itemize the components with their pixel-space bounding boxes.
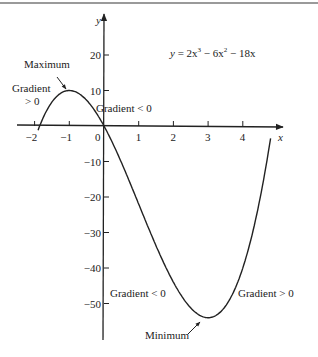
cubic-curve [38, 91, 271, 318]
minimum-arrow [188, 322, 200, 334]
y-tick-label: 20 [90, 49, 101, 61]
x-tick-label: −1 [60, 131, 72, 143]
y-tick-label: −30 [84, 227, 101, 239]
y-tick-label: 10 [90, 85, 101, 97]
minimum-label: Minimum [145, 329, 189, 341]
maximum-arrow [57, 77, 66, 89]
equation-lhs: y [170, 47, 175, 59]
gradient-positive-left-line2: > 0 [25, 95, 39, 107]
x-tick-label: 1 [136, 131, 142, 143]
y-tick-label: −40 [84, 262, 101, 274]
y-ticks [104, 55, 109, 304]
y-tick-label: −20 [84, 191, 101, 203]
x-tick-label: 0 [95, 131, 101, 143]
gradient-positive-left-line1: Gradient [12, 82, 50, 94]
x-axis-label: x [278, 131, 283, 143]
equation-term3: − 18x [227, 47, 255, 59]
maximum-label: Maximum [24, 58, 70, 70]
y-axis [103, 14, 104, 340]
y-tick-label: −10 [84, 156, 101, 168]
equation-term2: − 6x [201, 47, 224, 59]
x-tick-label: 3 [205, 131, 211, 143]
x-tick-label: 4 [240, 131, 246, 143]
equation-term1: 2x [187, 47, 198, 59]
gradient-negative-bottom-label: Gradient < 0 [110, 287, 166, 299]
x-tick-label: −2 [26, 131, 38, 143]
y-tick-label: −50 [84, 298, 101, 310]
equation-label: y = 2x3 − 6x2 − 18x [170, 46, 256, 59]
y-axis-label: y [96, 14, 101, 26]
chart-canvas [0, 0, 318, 357]
gradient-negative-top-label: Gradient < 0 [96, 102, 152, 114]
gradient-positive-right-label: Gradient > 0 [238, 287, 294, 299]
x-tick-label: 2 [170, 131, 176, 143]
